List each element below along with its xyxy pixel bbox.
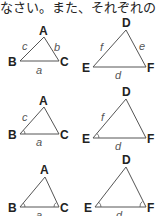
triangle-def-row1: D E F d e f — [82, 16, 154, 81]
side-c-label: c — [22, 111, 28, 123]
vertex-c-label: C — [60, 55, 69, 69]
vertex-f-label: F — [147, 132, 154, 146]
vertex-a-label: A — [39, 24, 48, 38]
vertex-d-label: D — [122, 16, 131, 30]
vertex-b-label: B — [8, 55, 17, 69]
vertex-b-label: B — [8, 128, 17, 142]
triangle-def-row3: D E F d — [84, 153, 154, 216]
vertex-f-label: F — [147, 61, 154, 75]
triangle-abc-row3: A B C a — [8, 163, 69, 216]
vertex-e-label: E — [82, 61, 90, 75]
vertex-f-label: F — [147, 201, 154, 215]
side-f-label: f — [100, 41, 104, 53]
triangle-abc-row1: A B C a b c — [8, 24, 69, 76]
vertex-d-label: D — [122, 85, 131, 99]
side-f-label: f — [101, 111, 105, 123]
vertex-c-label: C — [60, 201, 69, 215]
triangle-abc-row2: A B C a c — [8, 94, 69, 148]
side-a-label: a — [36, 209, 42, 216]
side-a-label: a — [36, 64, 42, 76]
vertex-a-label: A — [39, 94, 48, 108]
side-a-label: a — [36, 136, 42, 148]
side-d-label: d — [115, 140, 122, 152]
angle-c-mark — [54, 203, 56, 207]
angle-b-mark — [23, 203, 25, 207]
side-d-label: d — [115, 69, 122, 81]
triangle-figures: A B C a b c D E F d e f A B C a c D E F … — [0, 0, 161, 216]
angle-b-mark — [24, 130, 26, 134]
vertex-a-label: A — [40, 163, 49, 177]
vertex-c-label: C — [60, 128, 69, 142]
vertex-d-label: D — [122, 153, 131, 167]
vertex-b-label: B — [8, 201, 17, 215]
triangle-def-row2: D E F d f — [82, 85, 154, 152]
vertex-e-label: E — [84, 201, 92, 215]
angle-e-mark — [97, 134, 99, 139]
angle-f-mark — [140, 202, 142, 208]
side-b-label: b — [54, 41, 60, 53]
side-e-label: e — [139, 40, 145, 52]
angle-e-mark — [99, 202, 101, 207]
vertex-e-label: E — [82, 132, 90, 146]
side-c-label: c — [22, 40, 28, 52]
side-d-label: d — [116, 209, 123, 216]
